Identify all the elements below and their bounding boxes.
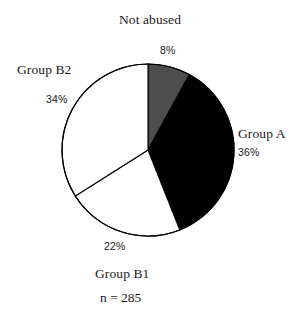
slice-label-not-abused-percent: 8% <box>160 45 176 56</box>
slice-label-group-b1: Group B1 <box>95 267 149 281</box>
slice-label-group-b1-percent: 22% <box>104 241 126 252</box>
slice-label-group-b2-percent: 34% <box>46 94 68 105</box>
sample-size-note: n = 285 <box>100 291 141 305</box>
pie-chart-graphic <box>0 0 300 320</box>
slice-label-group-a: Group A <box>238 127 286 141</box>
pie-chart-figure: Not abused 8% Group B2 34% Group A 36% 2… <box>0 0 300 320</box>
slice-label-group-b2: Group B2 <box>17 63 71 77</box>
slice-label-group-a-percent: 36% <box>238 147 260 158</box>
